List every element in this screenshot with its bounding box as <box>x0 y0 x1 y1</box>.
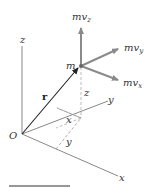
y-coordinate-label: y <box>65 136 72 147</box>
z-axis-label: z <box>19 34 26 45</box>
mvz-label: mvz <box>72 11 91 24</box>
x-coordinate-label: x <box>66 114 72 125</box>
z-coordinate-label: z <box>83 87 90 98</box>
momentum-diagram: O z y x m r z x y mvz mvy mvx <box>0 0 154 188</box>
mvx-label: mvx <box>123 77 142 90</box>
y-axis <box>22 101 108 134</box>
mass-label: m <box>66 60 75 71</box>
x-axis-label: x <box>119 172 125 183</box>
y-axis-label: y <box>107 94 114 105</box>
origin-label: O <box>9 130 17 141</box>
position-vector-label: r <box>42 91 48 102</box>
mass-point <box>79 64 83 68</box>
mvy-arrow <box>81 49 118 66</box>
mvx-arrow <box>81 66 118 80</box>
mvy-label: mvy <box>124 42 144 55</box>
